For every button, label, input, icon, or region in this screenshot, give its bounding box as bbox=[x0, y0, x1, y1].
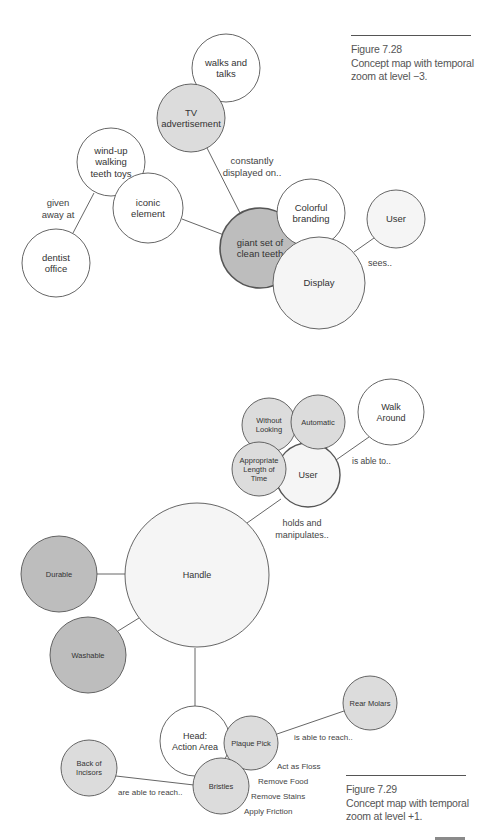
node-label: giant set of bbox=[237, 237, 284, 248]
node-label: Durable bbox=[46, 570, 72, 579]
link-label-remove-stains: Remove Stains bbox=[251, 792, 305, 801]
link-label-remove-food: Remove Food bbox=[258, 777, 308, 786]
node-label: office bbox=[45, 263, 68, 274]
caption-text-line-2: zoom at level +1. bbox=[346, 810, 466, 824]
node-label: walks and bbox=[204, 57, 247, 68]
node-washable: Washable bbox=[50, 617, 126, 693]
concept-map-canvas: walks andtalksTVadvertisementwind-upwalk… bbox=[0, 0, 482, 840]
node-label: Display bbox=[303, 277, 334, 288]
node-label: Around bbox=[376, 413, 405, 423]
caption-figure-number: Figure 7.28 bbox=[351, 43, 471, 57]
edge-plaquepick-to-molars bbox=[277, 711, 344, 734]
node-label: clean teeth bbox=[237, 248, 283, 259]
caption-rule bbox=[351, 35, 471, 36]
node-label: Rear Molars bbox=[350, 699, 391, 708]
node-appropriate-length-of-time: AppropriateLength ofTime bbox=[232, 442, 286, 496]
figure-7-29-caption: Figure 7.29 Concept map with temporal zo… bbox=[346, 775, 466, 824]
node-label: Walk bbox=[381, 402, 401, 412]
node-label: Bristles bbox=[209, 782, 234, 791]
node-label: Washable bbox=[71, 651, 104, 660]
node-label: Plaque Pick bbox=[231, 739, 271, 748]
link-label-act-as-floss: Act as Floss bbox=[277, 762, 321, 771]
node-dentist-office: dentistoffice bbox=[22, 229, 90, 297]
node-automatic: Automatic bbox=[291, 395, 345, 449]
caption-text-line-2: zoom at level −3. bbox=[351, 70, 471, 84]
node-label: Incisors bbox=[76, 768, 102, 777]
node-rear-molars: Rear Molars bbox=[343, 676, 397, 730]
node-label: wind-up bbox=[93, 145, 127, 156]
node-label: User bbox=[298, 470, 317, 480]
node-walk-around: WalkAround bbox=[358, 379, 424, 445]
node-label: Time bbox=[251, 474, 267, 483]
figure-7-28-caption: Figure 7.28 Concept map with temporal zo… bbox=[351, 35, 471, 84]
caption-rule bbox=[346, 775, 466, 776]
link-label-sees: sees.. bbox=[368, 258, 392, 268]
link-label-given-away-at: given bbox=[47, 197, 70, 208]
node-label: dentist bbox=[42, 252, 70, 263]
node-label: Head: bbox=[183, 731, 207, 741]
link-label-is-able-to: is able to.. bbox=[352, 456, 391, 466]
node-iconic-element: iconicelement bbox=[113, 173, 183, 243]
node-label: Looking bbox=[256, 425, 282, 434]
node-display: Display bbox=[273, 237, 365, 329]
edge-bristles-to-incisors bbox=[116, 776, 194, 785]
node-label: Back of bbox=[76, 759, 102, 768]
node-label: Action Area bbox=[172, 742, 218, 752]
caption-text-line-1: Concept map with temporal bbox=[346, 797, 466, 811]
node-durable: Durable bbox=[21, 536, 97, 612]
node-colorful-branding: Colorfulbranding bbox=[277, 179, 345, 247]
node-label: talks bbox=[216, 68, 236, 79]
caption-text-line-1: Concept map with temporal bbox=[351, 57, 471, 71]
node-label: branding bbox=[293, 213, 330, 224]
link-label-apply-friction: Apply Friction bbox=[244, 807, 292, 816]
edge-handle-to-user bbox=[247, 499, 281, 523]
node-label: iconic bbox=[136, 197, 161, 208]
link-label-holds-and-manipulates: manipulates.. bbox=[275, 530, 329, 540]
node-label: Appropriate bbox=[240, 456, 279, 465]
link-label-is-able-to-reach: is able to reach.. bbox=[294, 733, 353, 742]
node-handle: Handle bbox=[125, 503, 269, 647]
node-bristles: Bristles bbox=[193, 758, 249, 814]
node-label: walking bbox=[94, 156, 127, 167]
node-label: element bbox=[131, 208, 165, 219]
node-label: Automatic bbox=[301, 418, 335, 427]
node-label: Colorful bbox=[295, 202, 328, 213]
node-label: TV bbox=[185, 107, 198, 118]
node-label: Length of bbox=[243, 465, 275, 474]
node-back-of-incisors: Back ofIncisors bbox=[61, 740, 117, 796]
link-label-holds-and-manipulates: holds and bbox=[282, 518, 321, 528]
node-label: advertisement bbox=[161, 118, 221, 129]
link-label-constantly-displayed-on: constantly bbox=[231, 155, 274, 166]
edge-display-to-user bbox=[354, 238, 374, 252]
caption-figure-number: Figure 7.29 bbox=[346, 783, 466, 797]
node-label: Without bbox=[256, 416, 282, 425]
link-label-given-away-at: away at bbox=[42, 209, 75, 220]
node-tv-advertisement: TVadvertisement bbox=[157, 84, 225, 152]
node-label: Handle bbox=[183, 570, 212, 580]
edge-windup-to-dentist bbox=[73, 193, 94, 233]
link-label-are-able-to-reach: are able to reach.. bbox=[118, 788, 182, 797]
edge-handle-to-washable bbox=[118, 618, 139, 631]
node-user-top: User bbox=[367, 190, 425, 248]
node-label: User bbox=[386, 213, 406, 224]
link-label-constantly-displayed-on: displayed on.. bbox=[223, 167, 282, 178]
node-label: teeth toys bbox=[90, 168, 131, 179]
edge-iconic-to-teeth bbox=[182, 219, 224, 235]
